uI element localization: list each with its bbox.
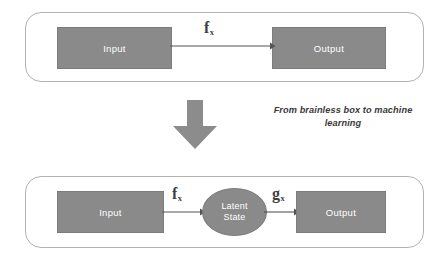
- bottom-connector-2-arrow-icon: [264, 206, 300, 218]
- transition-caption-line-2: learning: [325, 118, 362, 128]
- latent-state-label-line-2: State: [223, 212, 245, 223]
- top-function-subscript: x: [210, 27, 214, 37]
- top-input-box: Input: [57, 27, 172, 69]
- top-function-letter: f: [204, 19, 209, 36]
- bottom-input-box-label: Input: [99, 207, 122, 218]
- top-function-label: fx: [204, 20, 214, 36]
- diagram-canvas: Input Output fx From brainless box to ma…: [0, 0, 445, 263]
- bottom-function-g-letter: g: [272, 185, 280, 202]
- bottom-function-g-subscript: x: [281, 193, 285, 203]
- top-connector-arrow-icon: [170, 40, 276, 52]
- top-output-box-label: Output: [314, 43, 344, 54]
- latent-state-node: Latent State: [202, 188, 267, 236]
- transition-caption: From brainless box to machine learning: [247, 104, 439, 130]
- bottom-function-g-label: gx: [272, 186, 284, 202]
- down-arrow-icon: [172, 100, 218, 150]
- bottom-output-box: Output: [296, 191, 386, 233]
- bottom-connector-1-arrow-icon: [162, 206, 206, 218]
- top-input-box-label: Input: [103, 43, 126, 54]
- top-output-box: Output: [272, 27, 386, 69]
- bottom-function-f-letter: f: [172, 185, 177, 202]
- bottom-input-box: Input: [57, 191, 164, 233]
- bottom-output-box-label: Output: [326, 207, 356, 218]
- bottom-function-f-label: fx: [172, 186, 182, 202]
- transition-caption-line-1: From brainless box to machine: [274, 105, 413, 115]
- latent-state-label-line-1: Latent: [221, 201, 247, 212]
- bottom-function-f-subscript: x: [178, 193, 182, 203]
